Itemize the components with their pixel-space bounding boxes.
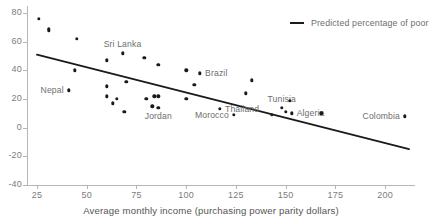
data-point	[157, 63, 160, 66]
data-point	[270, 113, 273, 116]
data-point	[105, 95, 108, 98]
x-tick-mark	[136, 185, 137, 189]
point-label: Brazil	[205, 68, 227, 78]
data-point	[157, 95, 160, 98]
x-tick-mark	[286, 185, 287, 189]
y-tick-label: 20	[0, 93, 22, 103]
x-tick-mark	[87, 185, 88, 189]
data-point	[125, 80, 128, 83]
x-tick-label: 150	[271, 190, 301, 200]
x-tick-mark	[335, 185, 336, 189]
x-tick-label: 125	[221, 190, 251, 200]
data-point	[115, 97, 118, 100]
data-point	[184, 69, 187, 72]
data-point	[111, 102, 114, 105]
data-point	[184, 97, 187, 100]
data-point	[151, 105, 154, 108]
y-tick-mark	[23, 128, 27, 129]
data-point	[232, 113, 235, 116]
x-tick-mark	[385, 185, 386, 189]
data-point	[47, 29, 50, 32]
y-tick-mark	[23, 185, 27, 186]
data-point	[153, 95, 156, 98]
data-point	[403, 115, 406, 118]
point-label: Nepal	[41, 85, 64, 95]
data-point	[290, 112, 293, 115]
data-point	[75, 37, 78, 40]
data-point	[145, 97, 148, 100]
data-point	[284, 110, 287, 113]
x-tick-mark	[186, 185, 187, 189]
y-axis-line	[27, 6, 28, 186]
y-tick-mark	[23, 13, 27, 14]
point-label: Colombia	[363, 111, 401, 121]
chart-legend: Predicted percentage of poor	[290, 18, 429, 28]
data-point	[37, 17, 40, 20]
x-axis-title: Average monthly income (purchasing power…	[0, 205, 422, 216]
x-axis-line	[27, 185, 415, 186]
point-label: Morocco	[195, 110, 229, 120]
data-point	[280, 106, 283, 109]
y-tick-label: 0	[0, 122, 22, 132]
y-tick-label: -40	[0, 179, 22, 189]
data-point	[143, 56, 146, 59]
data-point	[105, 59, 108, 62]
data-point	[73, 69, 76, 72]
y-tick-label: 60	[0, 36, 22, 46]
y-tick-mark	[23, 156, 27, 157]
x-tick-mark	[37, 185, 38, 189]
data-point	[244, 92, 247, 95]
y-tick-mark	[23, 42, 27, 43]
point-label: Sri Lanka	[104, 39, 142, 49]
data-point	[121, 52, 124, 55]
x-tick-label: 25	[22, 190, 52, 200]
legend-line-swatch-icon	[290, 22, 304, 24]
point-label: Tunisia	[267, 94, 295, 104]
data-point	[123, 110, 126, 113]
point-label: Thailand	[225, 104, 259, 114]
data-point	[105, 84, 108, 87]
data-point	[250, 79, 253, 82]
y-tick-mark	[23, 99, 27, 100]
x-tick-label: 100	[171, 190, 201, 200]
y-tick-mark	[23, 70, 27, 71]
y-tick-label: 80	[0, 7, 22, 17]
y-tick-label: -20	[0, 150, 22, 160]
legend-label: Predicted percentage of poor	[311, 18, 429, 28]
y-tick-label: 40	[0, 64, 22, 74]
x-tick-mark	[236, 185, 237, 189]
x-tick-label: 75	[121, 190, 151, 200]
data-point	[192, 83, 195, 86]
data-point	[198, 72, 201, 75]
x-tick-label: 50	[72, 190, 102, 200]
point-label: Jordan	[145, 111, 172, 121]
data-point	[157, 106, 160, 109]
x-tick-label: 200	[370, 190, 400, 200]
data-point	[67, 89, 70, 92]
x-tick-label: 175	[320, 190, 350, 200]
